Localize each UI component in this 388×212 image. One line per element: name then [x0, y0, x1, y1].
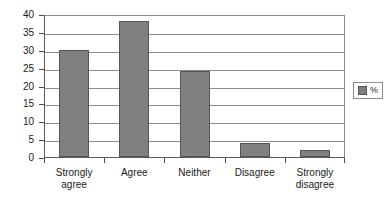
- x-tick-mark: [44, 158, 45, 163]
- bar-chart: 0510152025303540 Strongly agreeAgreeNeit…: [0, 0, 388, 212]
- x-axis: Strongly agreeAgreeNeitherDisagreeStrong…: [44, 158, 345, 212]
- x-tick-mark: [225, 158, 226, 163]
- y-tick-label: 40: [23, 10, 34, 20]
- x-tick-label: Strongly agree: [44, 167, 104, 191]
- x-tick-label: Agree: [104, 167, 164, 179]
- x-tick-mark: [285, 158, 286, 163]
- bar: [300, 150, 330, 157]
- bar: [59, 50, 89, 157]
- y-tick-label: 35: [23, 28, 34, 38]
- bar: [119, 21, 149, 157]
- y-tick-label: 10: [23, 117, 34, 127]
- x-tick-mark: [104, 158, 105, 163]
- x-tick-mark: [164, 158, 165, 163]
- bar: [240, 143, 270, 157]
- legend-label: %: [370, 86, 378, 95]
- y-tick-label: 5: [28, 135, 34, 145]
- x-tick-label: Disagree: [225, 167, 285, 179]
- x-tick-label: Strongly disagree: [285, 167, 345, 191]
- x-tick-label: Neither: [164, 167, 224, 179]
- y-tick-label: 15: [23, 99, 34, 109]
- bars-layer: [44, 15, 345, 158]
- y-tick-label: 30: [23, 46, 34, 56]
- y-tick-label: 0: [28, 153, 34, 163]
- bar: [180, 71, 210, 157]
- legend-swatch-icon: [358, 86, 367, 95]
- x-tick-mark: [344, 158, 345, 163]
- legend: %: [353, 82, 383, 99]
- y-axis: 0510152025303540: [0, 0, 44, 212]
- y-tick-label: 20: [23, 82, 34, 92]
- y-tick-label: 25: [23, 64, 34, 74]
